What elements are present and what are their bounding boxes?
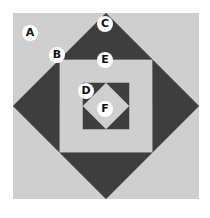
label-b: B: [49, 47, 65, 63]
label-a: A: [22, 25, 38, 41]
label-c: C: [97, 16, 113, 32]
label-d: D: [78, 83, 94, 99]
label-e: E: [97, 52, 113, 68]
label-f: F: [97, 101, 113, 117]
